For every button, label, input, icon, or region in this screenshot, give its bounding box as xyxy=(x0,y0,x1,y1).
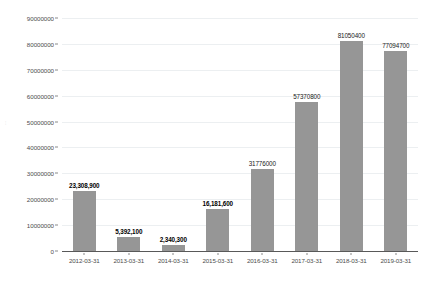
bar-value-label: 5,392,100 xyxy=(115,228,142,235)
x-axis-tick-mark xyxy=(351,253,352,255)
y-axis-tick-label: 90000000 xyxy=(27,15,54,22)
bar[interactable]: 5,392,100 xyxy=(117,237,140,251)
x-axis-tick-mark xyxy=(262,253,263,255)
bar-rect xyxy=(162,245,185,251)
y-axis-tick-mark xyxy=(55,199,58,200)
bar-value-label: 57370800 xyxy=(293,93,320,100)
bar-value-label: 2,340,300 xyxy=(160,236,187,243)
y-axis-tick-label: 40000000 xyxy=(27,144,54,151)
x-axis-labels: 2012-03-312013-03-312014-03-312015-03-31… xyxy=(62,253,418,271)
y-axis-tick-mark xyxy=(55,147,58,148)
y-axis-tick-mark xyxy=(55,121,58,122)
bar-rect xyxy=(117,237,140,251)
x-axis-tick-mark xyxy=(217,253,218,255)
x-axis-tick-label: 2014-03-31 xyxy=(158,257,189,264)
bar-value-label: 81050400 xyxy=(338,32,365,39)
bar-value-label: 23,308,900 xyxy=(69,182,100,189)
x-axis-tick-label: 2016-03-31 xyxy=(247,257,278,264)
y-axis-tick-mark xyxy=(55,225,58,226)
bar-rect xyxy=(340,41,363,251)
x-axis-tick-mark xyxy=(128,253,129,255)
y-axis-tick-mark xyxy=(55,43,58,44)
x-axis-tick-label: 2013-03-31 xyxy=(113,257,144,264)
x-axis-tick-mark xyxy=(173,253,174,255)
y-axis-tick-label: 10000000 xyxy=(27,222,54,229)
bar[interactable]: 31776000 xyxy=(251,169,274,251)
y-axis-tick-label: 70000000 xyxy=(27,66,54,73)
bar[interactable]: 81050400 xyxy=(340,41,363,251)
bar-rect xyxy=(384,51,407,251)
y-axis-tick-label: 60000000 xyxy=(27,92,54,99)
y-axis-tick-label: 30000000 xyxy=(27,170,54,177)
x-axis-tick-label: 2018-03-31 xyxy=(336,257,367,264)
bar-value-label: 31776000 xyxy=(249,160,276,167)
bar[interactable]: 2,340,300 xyxy=(162,245,185,251)
x-axis-tick-label: 2015-03-31 xyxy=(202,257,233,264)
bar-rect xyxy=(295,102,318,251)
bar-rect xyxy=(73,191,96,251)
y-axis-tick-mark xyxy=(55,18,58,19)
y-axis-tick-mark xyxy=(55,251,58,252)
y-axis-tick-mark xyxy=(55,173,58,174)
bar[interactable]: 57370800 xyxy=(295,102,318,251)
bar[interactable]: 77094700 xyxy=(384,51,407,251)
bar[interactable]: 23,308,900 xyxy=(73,191,96,251)
x-axis-tick-label: 2012-03-31 xyxy=(69,257,100,264)
y-axis-tick-mark xyxy=(55,95,58,96)
bar-value-label: 16,181,600 xyxy=(202,200,233,207)
y-axis-tick-label: 80000000 xyxy=(27,40,54,47)
bar[interactable]: 16,181,600 xyxy=(206,209,229,251)
x-axis-tick-label: 2017-03-31 xyxy=(291,257,322,264)
bar-rect xyxy=(251,169,274,251)
plot-area: 23,308,9005,392,1002,340,30016,181,60031… xyxy=(62,18,418,251)
x-axis-tick-mark xyxy=(306,253,307,255)
axis-baseline xyxy=(62,251,418,252)
x-axis-tick-mark xyxy=(84,253,85,255)
bar-value-label: 77094700 xyxy=(382,42,409,49)
y-axis-tick-mark xyxy=(55,69,58,70)
y-axis-tick-label: 50000000 xyxy=(27,118,54,125)
y-axis-tick-label: 0 xyxy=(51,248,54,255)
bar-chart: ⫶ 01000000020000000300000004000000050000… xyxy=(0,0,429,288)
x-axis-tick-mark xyxy=(395,253,396,255)
bar-rect xyxy=(206,209,229,251)
y-axis-labels: 0100000002000000030000000400000005000000… xyxy=(0,18,58,251)
y-axis-tick-label: 20000000 xyxy=(27,196,54,203)
x-axis-tick-label: 2019-03-31 xyxy=(380,257,411,264)
bar-series: 23,308,9005,392,1002,340,30016,181,60031… xyxy=(62,18,418,251)
